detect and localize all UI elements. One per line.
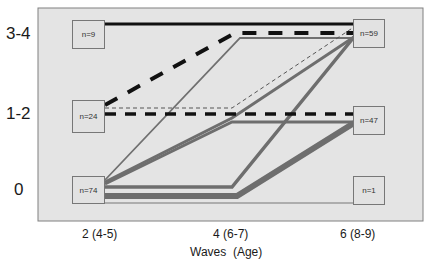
y-tick-34: 3-4 <box>6 24 31 44</box>
y-tick-0: 0 <box>14 180 23 200</box>
box-wave2-34: n=9 <box>72 20 105 49</box>
box-wave2-12: n=24 <box>72 100 105 133</box>
box-wave6-12: n=47 <box>353 106 385 135</box>
box-wave6-0: n=1 <box>353 176 385 205</box>
x-tick-wave4: 4 (6-7) <box>213 227 248 241</box>
x-tick-wave6: 6 (8-9) <box>340 227 375 241</box>
y-tick-12: 1-2 <box>6 104 31 124</box>
x-tick-wave2: 2 (4-5) <box>82 227 117 241</box>
box-wave2-0: n=74 <box>72 176 105 204</box>
box-wave6-34: n=59 <box>353 19 385 48</box>
x-axis-title: Waves (Age) <box>190 245 262 259</box>
